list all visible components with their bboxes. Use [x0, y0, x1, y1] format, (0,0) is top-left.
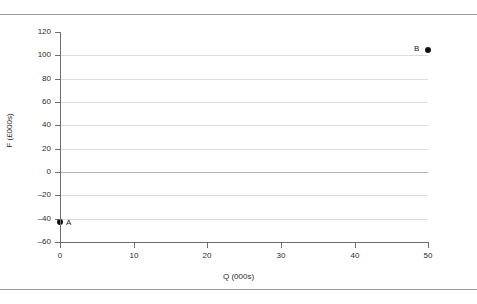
y-tick-label-120: 120	[18, 28, 51, 36]
y-tick-label-20: 20	[18, 145, 51, 153]
y-tick-mark-20	[55, 149, 60, 150]
x-tick-mark-0	[60, 243, 61, 248]
y-axis-line	[60, 32, 61, 243]
x-tick-label-40: 40	[340, 252, 370, 260]
y-tick-mark-80	[55, 79, 60, 80]
y-tick-mark-40	[55, 125, 60, 126]
y-tick-mark-120	[55, 32, 60, 33]
y-tick-mark-0	[55, 172, 60, 173]
gridline-20	[60, 149, 428, 150]
gridline-neg40	[60, 219, 428, 220]
scatter-chart: A B 120 100 80 60 40 20 0 –20 –40 –60 0	[0, 14, 477, 289]
y-tick-mark-neg20	[55, 195, 60, 196]
y-tick-label-neg40: –40	[18, 215, 51, 223]
y-tick-label-40: 40	[18, 121, 51, 129]
y-tick-label-neg20: –20	[18, 191, 51, 199]
x-tick-label-0: 0	[45, 252, 75, 260]
gridline-neg20	[60, 195, 428, 196]
data-point-b-label: B	[414, 45, 419, 53]
y-tick-label-0: 0	[18, 168, 51, 176]
plot-area: A B	[60, 32, 428, 242]
x-tick-mark-50	[428, 243, 429, 248]
chart-page: A B 120 100 80 60 40 20 0 –20 –40 –60 0	[0, 0, 477, 304]
data-point-a-label: A	[66, 219, 71, 227]
x-tick-mark-10	[134, 243, 135, 248]
y-tick-label-80: 80	[18, 75, 51, 83]
x-tick-mark-40	[355, 243, 356, 248]
x-tick-mark-20	[207, 243, 208, 248]
x-tick-label-20: 20	[192, 252, 222, 260]
gridline-0	[60, 172, 428, 173]
x-tick-label-10: 10	[119, 252, 149, 260]
x-tick-mark-30	[281, 243, 282, 248]
y-tick-label-neg60: –60	[18, 238, 51, 246]
bottom-divider-rule	[0, 289, 477, 290]
x-tick-label-30: 30	[266, 252, 296, 260]
y-tick-mark-60	[55, 102, 60, 103]
y-tick-mark-neg40	[55, 219, 60, 220]
y-tick-label-60: 60	[18, 98, 51, 106]
y-axis-title: F (£000s)	[5, 86, 14, 176]
x-tick-label-50: 50	[413, 252, 443, 260]
gridline-80	[60, 79, 428, 80]
gridline-100	[60, 55, 428, 56]
gridline-60	[60, 102, 428, 103]
x-axis-line	[60, 242, 429, 243]
data-point-b-marker[interactable]	[425, 47, 431, 53]
gridline-40	[60, 125, 428, 126]
y-tick-label-100: 100	[18, 51, 51, 59]
x-axis-title: Q (000s)	[0, 272, 477, 281]
y-tick-mark-100	[55, 55, 60, 56]
